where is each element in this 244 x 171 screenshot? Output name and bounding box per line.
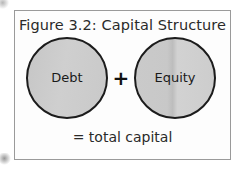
figure-title: Figure 3.2: Capital Structure [15,16,230,34]
equity-label: Equity [154,70,195,85]
debt-label: Debt [51,70,82,85]
figure-container: Figure 3.2: Capital Structure Debt + Equ… [0,0,244,171]
scan-artifact-top-left [0,0,9,9]
scan-artifact-bottom-left [0,153,11,165]
equity-circle: Equity [134,37,216,119]
plus-operator: + [108,37,134,119]
total-capital-result: = total capital [15,128,230,146]
figure-frame: Figure 3.2: Capital Structure Debt + Equ… [14,10,231,160]
debt-circle: Debt [26,37,108,119]
capital-structure-equation: Debt + Equity [15,37,230,121]
